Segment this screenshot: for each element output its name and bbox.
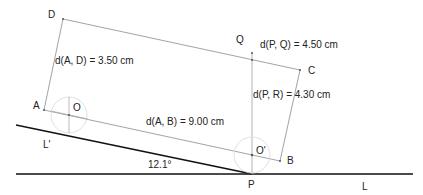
angle-label: 12.1°: [148, 160, 171, 170]
point-o-prime-dot: [251, 154, 253, 156]
point-o-dot: [68, 114, 70, 116]
label-q: Q: [236, 35, 244, 45]
label-o: O: [73, 103, 81, 113]
label-b: B: [287, 156, 294, 166]
measurement-ab: d(A, B) = 9.00 cm: [146, 117, 224, 127]
measurement-pq: d(P, Q) = 4.50 cm: [260, 40, 338, 50]
measurement-ad: d(A, D) = 3.50 cm: [55, 56, 134, 66]
point-c-dot: [299, 69, 301, 71]
geometry-canvas: [0, 0, 423, 195]
point-q-dot: [251, 52, 253, 54]
point-intersect-dot: [251, 59, 253, 61]
label-o-prime: O': [256, 146, 266, 156]
measurement-pr: d(P, R) = 4.30 cm: [253, 90, 330, 100]
point-d-dot: [62, 18, 64, 20]
label-l-prime: L': [43, 140, 50, 150]
point-a-dot: [43, 109, 45, 111]
label-a: A: [33, 101, 40, 111]
label-l: L: [362, 182, 368, 192]
label-p: P: [248, 180, 255, 190]
point-b-dot: [279, 160, 281, 162]
label-d: D: [48, 10, 55, 20]
label-c: C: [308, 66, 315, 76]
line-l-prime: [16, 125, 252, 174]
